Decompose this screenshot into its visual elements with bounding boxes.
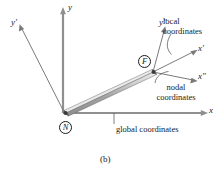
bar-body-face — [67, 71, 157, 116]
global-coordinates-annotation: global coordinates — [116, 125, 179, 134]
bar-element — [64, 70, 157, 117]
local-coordinates-leader — [167, 34, 171, 55]
y-double-prime-axis-line — [153, 31, 164, 72]
x-prime-axis-label: x′ — [198, 44, 204, 53]
prime-mark-y-prime: ′ — [15, 17, 17, 27]
nodal-coordinates-line2: coordinates — [147, 93, 205, 103]
x-axis-label-text: x — [209, 105, 213, 115]
y-axis-label-text: y — [68, 2, 72, 12]
y-prime-axis-label: y′ — [11, 18, 17, 27]
x-double-prime-axis-label: x″ — [198, 72, 205, 81]
x-prime-arrowhead — [191, 50, 198, 56]
x-axis-label: x — [209, 106, 213, 115]
node-label-n: N — [59, 121, 72, 134]
node-n-dot — [64, 111, 68, 115]
y-axis-label: y — [68, 3, 72, 12]
y-prime-arrowhead — [19, 24, 24, 31]
x-double-prime-axis-line — [153, 72, 193, 80]
bar-top-face — [64, 70, 155, 113]
local-coordinates-line2: coordinates — [163, 27, 202, 37]
global-coordinates-text: global coordinates — [116, 124, 179, 134]
figure-caption-text: (b) — [100, 154, 111, 164]
node-f-text: F — [142, 57, 147, 66]
y-prime-axis-line — [22, 29, 64, 112]
node-n-text: N — [63, 123, 69, 132]
y-axis-arrowhead — [60, 7, 66, 14]
prime-mark-x-prime: ′ — [202, 43, 204, 53]
nodal-coordinates-annotation: nodal coordinates — [147, 83, 205, 102]
bar-element-coordinate-figure: y x y′ y″ x′ x″ N F local coordinates no… — [0, 0, 220, 176]
local-coordinates-annotation: local coordinates — [163, 17, 202, 36]
node-f-dot — [152, 70, 156, 74]
figure-caption: (b) — [100, 155, 111, 164]
x-axis-arrowhead — [201, 110, 208, 116]
x-prime-axis-line — [153, 52, 193, 72]
node-label-f: F — [138, 55, 151, 68]
double-prime-mark-x: ″ — [202, 71, 205, 81]
